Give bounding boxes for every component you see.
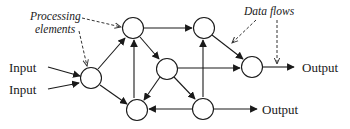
edge-A-D bbox=[100, 85, 127, 104]
edge-C-D bbox=[144, 77, 160, 100]
processing-node-D bbox=[127, 100, 148, 121]
processing-node-F bbox=[194, 18, 215, 39]
annotation-pointer-to-A bbox=[79, 31, 87, 66]
edge-B-C bbox=[140, 37, 159, 59]
annotation-pointer-to-edge-FG bbox=[232, 20, 256, 43]
edge-A-B bbox=[98, 38, 125, 69]
annotation-pointer-to-B bbox=[82, 18, 121, 27]
annotation-processing-line2: elements bbox=[35, 23, 76, 35]
edge-input2-A bbox=[48, 83, 79, 89]
output-label-1: Output bbox=[302, 60, 339, 75]
processing-node-G bbox=[242, 57, 263, 78]
annotation-processing-line1: Processing bbox=[29, 10, 81, 23]
processing-node-E bbox=[193, 99, 214, 120]
input-label-2: Input bbox=[9, 82, 37, 97]
edge-input1-A bbox=[48, 67, 80, 76]
processing-node-C bbox=[157, 59, 178, 80]
output-label-2: Output bbox=[262, 102, 299, 117]
processing-node-A bbox=[81, 68, 102, 89]
annotation-dataflows: Data flows bbox=[243, 5, 295, 18]
edge-F-G bbox=[212, 35, 243, 59]
input-label-1: Input bbox=[9, 60, 37, 75]
edge-C-E bbox=[174, 77, 195, 99]
processing-node-B bbox=[123, 18, 144, 39]
neural-network-diagram: Input Input Output Output Processing ele… bbox=[0, 0, 350, 129]
